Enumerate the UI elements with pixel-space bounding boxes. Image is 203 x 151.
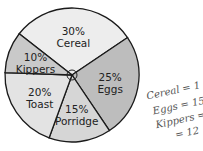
pie-label-name-kippers: Kippers	[16, 63, 55, 75]
pie-label-pct-cereal: 30%	[62, 25, 85, 37]
pie-label-pct-toast: 20%	[28, 86, 51, 98]
pie-label-name-porridge: Porridge	[55, 115, 99, 127]
pie-label-name-cereal: Cereal	[57, 37, 91, 49]
pie-chart: 30%Cereal25%Eggs15%Porridge20%Toast10%Ki…	[0, 0, 203, 151]
note-other: = 12	[174, 125, 200, 141]
pie-label-pct-kippers: 10%	[24, 51, 47, 63]
pie-label-pct-eggs: 25%	[98, 71, 121, 83]
handwritten-notes: Cereal = 1 Eggs = 15 Kippers = 6 = 12	[145, 77, 203, 144]
pie-label-name-toast: Toast	[25, 98, 53, 110]
pie-label-pct-porridge: 15%	[65, 103, 88, 115]
pie-label-name-eggs: Eggs	[97, 83, 122, 95]
